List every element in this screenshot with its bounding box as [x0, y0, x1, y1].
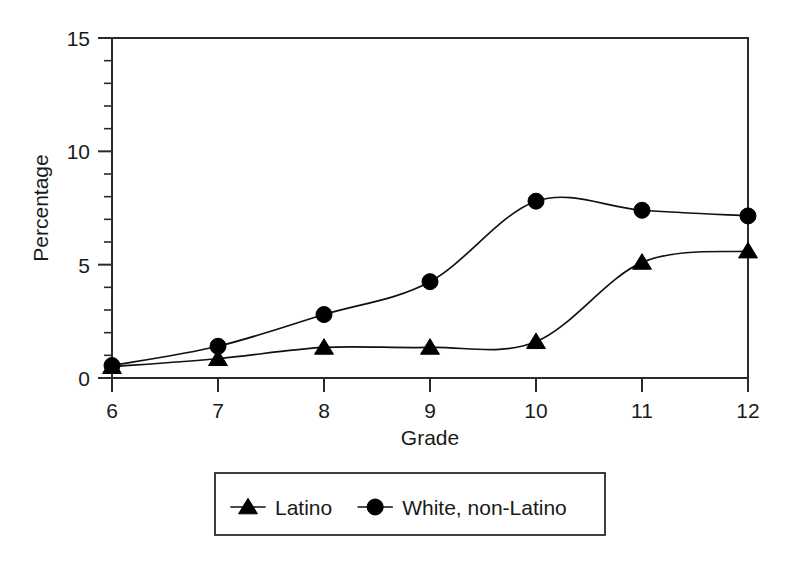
data-point-circle-marker: [104, 358, 120, 374]
x-tick-label: 12: [736, 399, 759, 422]
plot-frame: [112, 38, 748, 378]
data-point-triangle-marker: [739, 242, 758, 258]
data-point-circle-marker: [422, 274, 438, 290]
series-1: [103, 242, 758, 373]
data-point-circle-marker: [210, 338, 226, 354]
x-tick-label: 8: [318, 399, 330, 422]
x-tick-label: 9: [424, 399, 436, 422]
data-point-circle-marker: [740, 208, 756, 224]
data-point-triangle-marker: [633, 254, 652, 270]
data-point-triangle-marker: [421, 339, 440, 355]
x-tick-label: 11: [631, 399, 653, 422]
y-tick-label: 10: [67, 140, 90, 163]
data-series-layer: [103, 193, 758, 373]
data-point-triangle-marker: [527, 333, 546, 349]
legend-label: Latino: [275, 496, 332, 519]
x-axis-title: Grade: [401, 426, 459, 449]
y-axis-ticks: [98, 38, 112, 378]
x-tick-label: 10: [524, 399, 547, 422]
y-axis-title: Percentage: [29, 154, 52, 261]
data-point-circle-marker: [528, 193, 544, 209]
y-tick-label: 5: [78, 254, 90, 277]
y-tick-label: 0: [78, 367, 90, 390]
data-point-circle-marker: [634, 202, 650, 218]
x-axis-tick-labels: 6789101112: [106, 399, 760, 422]
x-tick-label: 6: [106, 399, 118, 422]
data-point-circle-marker: [367, 499, 383, 515]
x-axis-ticks: [112, 378, 748, 392]
legend-label: White, non-Latino: [402, 496, 567, 519]
x-tick-label: 7: [212, 399, 224, 422]
legend: LatinoWhite, non-Latino: [215, 473, 605, 535]
y-tick-label: 15: [67, 27, 90, 50]
data-point-circle-marker: [316, 307, 332, 323]
y-axis-tick-labels: 051015: [67, 27, 90, 390]
chart-figure: 051015 6789101112 Percentage Grade Latin…: [0, 0, 800, 570]
